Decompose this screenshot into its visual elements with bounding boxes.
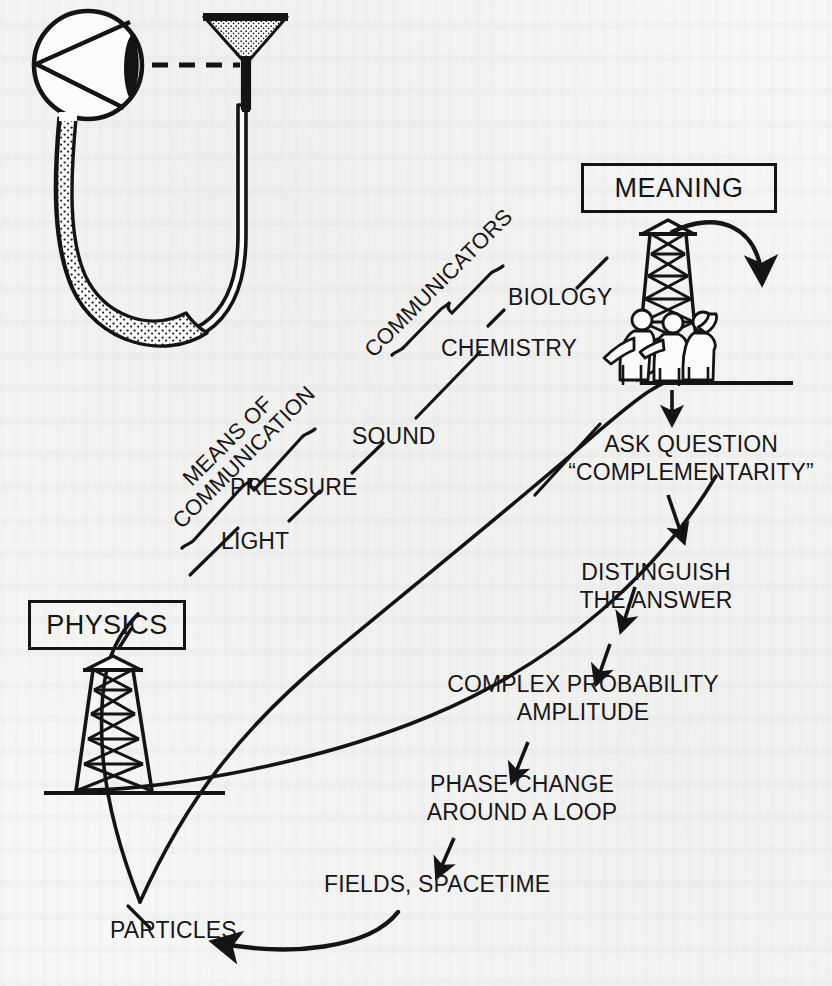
ask-question-label: ASK QUESTION “COMPLEMENTARITY”	[566, 432, 816, 485]
pressure-label: PRESSURE	[230, 475, 357, 499]
complex-probability-amplitude-label: COMPLEX PROBABILITY AMPLITUDE	[418, 672, 748, 725]
ask-question-line2: “COMPLEMENTARITY”	[566, 460, 816, 484]
biology-text: BIOLOGY	[508, 284, 612, 310]
chemistry-label: CHEMISTRY	[441, 336, 577, 360]
distinguish-line1: DISTINGUISH	[551, 560, 761, 584]
physics-box: PHYSICS	[28, 600, 186, 650]
sound-text: SOUND	[352, 423, 436, 449]
particles-text: PARTICLES	[110, 917, 237, 943]
distinguish-the-answer-label: DISTINGUISH THE ANSWER	[551, 560, 761, 613]
light-text: LIGHT	[221, 528, 289, 554]
meaning-box-label: MEANING	[615, 173, 744, 204]
observation-tower-with-observers-icon	[604, 220, 793, 386]
diagram-artwork	[0, 0, 832, 986]
phase-change-around-a-loop-label: PHASE CHANGE AROUND A LOOP	[382, 772, 662, 825]
figure-canvas: PHYSICS MEANING MEANS OF COMMUNICATION C…	[0, 0, 832, 986]
cpa-line1: COMPLEX PROBABILITY	[418, 672, 748, 696]
fields-spacetime-text: FIELDS, SPACETIME	[324, 871, 550, 897]
phase-change-line1: PHASE CHANGE	[382, 772, 662, 796]
sound-label: SOUND	[352, 424, 436, 448]
particles-label: PARTICLES	[110, 918, 237, 942]
chemistry-text: CHEMISTRY	[441, 335, 577, 361]
pressure-text: PRESSURE	[230, 474, 357, 500]
cpa-line2: AMPLITUDE	[418, 700, 748, 724]
u-tube-icon	[55, 105, 246, 346]
biology-label: BIOLOGY	[508, 285, 612, 309]
observation-tower-icon	[44, 629, 225, 793]
ask-question-line1: ASK QUESTION	[566, 432, 816, 456]
meaning-box: MEANING	[581, 163, 777, 213]
light-label: LIGHT	[221, 529, 289, 553]
physics-box-label: PHYSICS	[46, 610, 167, 641]
eye-icon	[34, 11, 142, 119]
phase-change-line2: AROUND A LOOP	[382, 800, 662, 824]
curved-loop-arrow-icon	[214, 912, 398, 949]
distinguish-line2: THE ANSWER	[551, 588, 761, 612]
fields-spacetime-label: FIELDS, SPACETIME	[324, 872, 550, 896]
